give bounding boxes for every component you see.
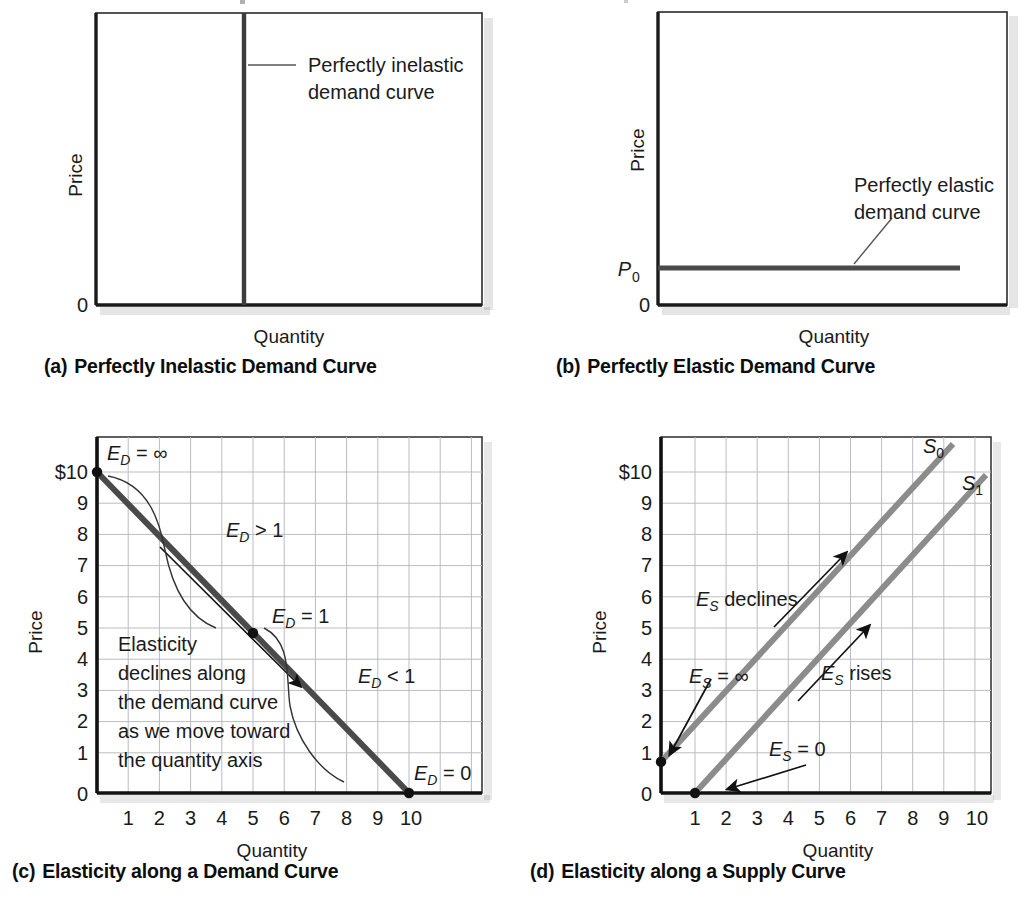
panel-c-xtick-2: 2	[154, 807, 165, 829]
panel-c-xtick-5: 5	[247, 807, 258, 829]
sym-E-3: E	[272, 605, 286, 627]
sym-inf-1: ∞	[153, 442, 167, 464]
panel-c-ytick-4: 4	[77, 648, 88, 670]
supply-point-s1-intercept	[690, 788, 700, 798]
panel-a-shadow-right	[484, 18, 493, 310]
panel-c-note-line-3: the demand curve	[118, 691, 278, 713]
sym-subD-2: D	[239, 529, 249, 545]
panel-b-shadow-bottom	[662, 307, 1010, 315]
panel-a-caption: (a)Perfectly Inelastic Demand Curve	[44, 355, 377, 378]
sym-subD-1: D	[120, 452, 130, 468]
panel-b-perfectly-elastic: Perfectly elastic demand curve Price P 0…	[516, 0, 1032, 400]
panel-b-shadow-right	[1009, 16, 1018, 308]
sym-eq-2: =	[301, 605, 313, 627]
sym-E-1: E	[107, 442, 121, 464]
panel-b-caption-letter: (b)	[556, 355, 580, 377]
panel-c-xtick-7: 7	[310, 807, 321, 829]
panel-c-xtick-3: 3	[185, 807, 196, 829]
panel-d-ytick-4: 4	[641, 648, 652, 670]
panel-c-ytick-9: 9	[77, 492, 88, 514]
panel-d-plot-frame	[661, 437, 991, 793]
panel-c-caption: (c)Elasticity along a Demand Curve	[12, 860, 338, 883]
panel-b-x-axis-label: Quantity	[799, 326, 870, 347]
sym-zero-2: 0	[815, 738, 826, 760]
panel-d-caption: (d)Elasticity along a Supply Curve	[530, 860, 846, 883]
panel-b-annotation-line2: demand curve	[854, 201, 981, 223]
panel-c-ytick-6: 6	[77, 586, 88, 608]
panel-b-caption-text: Perfectly Elastic Demand Curve	[587, 355, 875, 377]
sym-lt-1: <	[387, 665, 399, 687]
sym-E-9: E	[769, 738, 783, 760]
panel-c-ytick-2: 2	[77, 710, 88, 732]
sym-E-8: E	[689, 665, 703, 687]
panel-d-caption-letter: (d)	[530, 860, 554, 882]
supply-point-s0-intercept	[656, 757, 666, 767]
demand-point-lower	[404, 788, 414, 798]
panel-c-ytick-5: 5	[77, 617, 88, 639]
panel-d-ytick-1: 1	[641, 742, 652, 764]
panel-c-caption-text: Elasticity along a Demand Curve	[42, 860, 338, 882]
panel-a-shadow-bottom	[100, 307, 490, 315]
panel-c-ytick-0: 0	[77, 783, 88, 805]
panel-d-elasticity-supply: S0 S1 ES declines ES rises ES = ∞ ES = 0…	[516, 420, 1032, 917]
panel-d-ytick-7: 7	[641, 554, 652, 576]
panel-c-y-axis-label: Price	[25, 610, 46, 653]
sym-eq-4: =	[717, 665, 729, 687]
panel-c-note-line-1: Elasticity	[118, 633, 197, 655]
panel-c-xtick-4: 4	[216, 807, 227, 829]
demand-point-upper	[92, 467, 102, 477]
panel-d-ytick-8: 8	[641, 523, 652, 545]
sym-one-3: 1	[404, 665, 415, 687]
panel-d-ytick-9: 9	[641, 492, 652, 514]
panel-c-note-line-5: the quantity axis	[118, 749, 263, 771]
sym-inf-2: ∞	[735, 665, 749, 687]
panel-b-origin-label: 0	[639, 294, 650, 316]
panel-c-ytick-1: 1	[77, 742, 88, 764]
sym-one-2: 1	[318, 605, 329, 627]
panel-d-xtick-8: 8	[907, 807, 918, 829]
panel-a-perfectly-inelastic: Perfectly inelastic demand curve Price 0…	[0, 0, 516, 400]
sym-E-6: E	[696, 588, 710, 610]
panel-c-shadow-right	[484, 442, 492, 800]
panel-d-ytick-5: 5	[641, 617, 652, 639]
sym-rises-1: rises	[849, 662, 891, 684]
panel-d-xtick-4: 4	[783, 807, 794, 829]
panel-c-xtick-9: 9	[372, 807, 383, 829]
panel-a-origin-label: 0	[77, 294, 88, 316]
sym-declines-1: declines	[724, 588, 797, 610]
panel-b-price-level-subscript: 0	[632, 269, 640, 285]
sym-eq-1: =	[136, 442, 148, 464]
panel-d-chart: S0 S1 ES declines ES rises ES = ∞ ES = 0…	[516, 420, 1032, 917]
panel-d-xtick-9: 9	[938, 807, 949, 829]
panel-c-note-line-4: as we move toward	[118, 720, 290, 742]
panel-a-x-axis-label: Quantity	[254, 326, 325, 347]
sym-subD-4: D	[371, 675, 381, 691]
panel-d-caption-text: Elasticity along a Supply Curve	[561, 860, 845, 882]
panel-b-annotation-line1: Perfectly elastic	[854, 174, 994, 196]
panel-c-caption-letter: (c)	[12, 860, 35, 882]
panel-d-xtick-3: 3	[752, 807, 763, 829]
panel-a-annotation-line1: Perfectly inelastic	[308, 54, 464, 76]
sym-sub0-1: 0	[936, 445, 944, 461]
panel-d-ytick-10: $10	[619, 461, 652, 483]
panel-c-xtick-8: 8	[341, 807, 352, 829]
panel-a-chart: Perfectly inelastic demand curve Price 0…	[0, 0, 516, 400]
panel-d-ytick-2: 2	[641, 710, 652, 732]
sym-gt-1: >	[255, 519, 267, 541]
panel-b-plot-frame	[658, 12, 1007, 305]
panel-c-ytick-7: 7	[77, 554, 88, 576]
panel-c-chart: $10 9 8 7 6 5 4 3 2 1 0 1 2 3 4 5 6 7 8 …	[0, 420, 516, 917]
sym-S-2: S	[962, 472, 976, 494]
panel-c-elasticity-demand: $10 9 8 7 6 5 4 3 2 1 0 1 2 3 4 5 6 7 8 …	[0, 420, 516, 917]
sym-S-1: S	[923, 435, 937, 457]
sym-eq-3: =	[443, 762, 455, 784]
sym-E-2: E	[226, 519, 240, 541]
panel-c-xtick-6: 6	[279, 807, 290, 829]
panel-c-xtick-10: 10	[400, 807, 422, 829]
panel-d-y-axis-label: Price	[589, 610, 610, 653]
panel-c-shadow-bottom	[100, 795, 490, 803]
panel-d-xtick-10: 10	[966, 807, 988, 829]
panel-c-ytick-8: 8	[77, 523, 88, 545]
sym-E-7: E	[821, 662, 835, 684]
panel-b-chart: Perfectly elastic demand curve Price P 0…	[516, 0, 1032, 400]
